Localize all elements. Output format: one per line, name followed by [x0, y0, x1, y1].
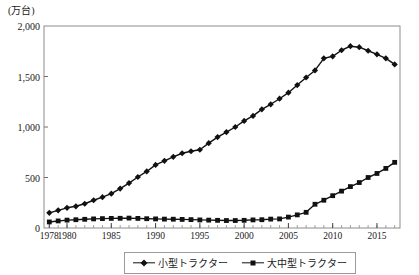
data-point-marker [127, 216, 132, 221]
data-point-marker [206, 218, 211, 223]
data-point-marker [56, 219, 61, 224]
legend-entry-0: 小型トラクター [133, 255, 228, 270]
y-axis-tick-label: 500 [4, 172, 40, 183]
x-axis-tick-label: 1985 [102, 231, 121, 241]
data-point-marker [171, 217, 176, 222]
data-point-marker [162, 217, 167, 222]
x-axis-tick-label: 2010 [323, 231, 342, 241]
data-point-marker [144, 216, 149, 221]
data-point-marker [73, 217, 78, 222]
legend-entry-1: 大中型トラクター [242, 255, 347, 270]
data-point-marker [321, 198, 326, 203]
chart-figure: (万台) 05001,0001,5002,000 197819801985199… [0, 0, 419, 275]
data-point-marker [242, 218, 247, 223]
plot-border [44, 26, 400, 228]
data-point-marker [233, 218, 238, 223]
data-point-marker [197, 218, 202, 223]
square-marker-icon [242, 258, 264, 268]
data-point-marker [366, 175, 371, 180]
x-axis-tick-label: 1978 [40, 231, 59, 241]
data-point-marker [118, 216, 123, 221]
data-point-marker [375, 171, 380, 176]
data-point-marker [189, 217, 194, 222]
data-point-marker [259, 217, 264, 222]
diamond-marker-icon [133, 258, 155, 268]
data-point-marker [65, 218, 70, 223]
x-axis-tick-label: 2015 [367, 231, 386, 241]
x-axis-tick-label: 1995 [190, 231, 209, 241]
x-axis-tick-label: 1980 [58, 231, 77, 241]
data-point-marker [109, 216, 114, 221]
data-point-marker [224, 218, 229, 223]
data-point-marker [135, 216, 140, 221]
data-point-marker [82, 217, 87, 222]
data-point-marker [47, 220, 52, 225]
legend-label: 小型トラクター [158, 255, 228, 270]
data-point-marker [295, 212, 300, 217]
data-point-marker [91, 217, 96, 222]
data-point-marker [153, 217, 158, 222]
data-point-marker [357, 180, 362, 185]
data-point-marker [286, 215, 291, 220]
data-point-marker [348, 184, 353, 189]
data-point-marker [268, 217, 273, 222]
data-point-marker [304, 210, 309, 215]
y-axis-tick-label: 1,000 [4, 122, 40, 133]
chart-legend: 小型トラクター大中型トラクター [124, 252, 356, 274]
data-point-marker [100, 216, 105, 221]
x-axis-tick-label: 2005 [279, 231, 298, 241]
x-axis-tick-label: 2000 [235, 231, 254, 241]
data-point-marker [251, 218, 256, 223]
y-axis-tick-label: 0 [4, 223, 40, 234]
y-axis-tick-labels: 05001,0001,5002,000 [0, 0, 40, 275]
data-point-marker [277, 217, 282, 222]
data-point-marker [330, 193, 335, 198]
y-axis-tick-label: 1,500 [4, 71, 40, 82]
legend-label: 大中型トラクター [267, 255, 347, 270]
data-point-marker [339, 189, 344, 194]
y-axis-tick-label: 2,000 [4, 21, 40, 32]
data-point-marker [313, 202, 318, 207]
data-point-marker [392, 160, 397, 165]
data-point-marker [383, 166, 388, 171]
x-axis-tick-label: 1990 [146, 231, 165, 241]
data-point-marker [215, 218, 220, 223]
data-point-marker [180, 217, 185, 222]
